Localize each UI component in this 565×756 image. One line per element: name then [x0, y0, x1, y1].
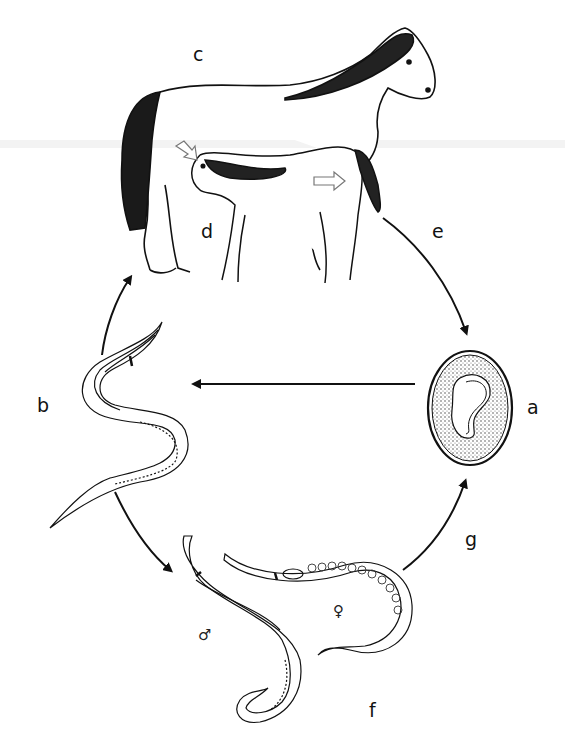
egg-illustration — [428, 351, 512, 465]
arrow-f-to-a — [403, 482, 465, 570]
female-worm-illustration — [224, 554, 412, 655]
foal-illustration — [192, 147, 381, 283]
mare-illustration — [122, 28, 436, 273]
female-symbol: ♀ — [333, 604, 344, 619]
label-c: c — [193, 45, 203, 64]
arrow-b-to-f — [115, 492, 170, 570]
label-f: f — [369, 701, 376, 720]
label-d: d — [201, 222, 213, 241]
life-cycle-diagram — [0, 0, 565, 756]
arrow-b-to-c — [102, 278, 130, 355]
label-g: g — [465, 530, 477, 549]
male-symbol: ♂ — [198, 628, 211, 643]
label-e: e — [432, 222, 444, 241]
scan-band — [0, 140, 565, 148]
label-b: b — [37, 396, 49, 415]
arrow-c-to-a — [383, 218, 466, 332]
larva-illustration — [50, 322, 188, 528]
cycle-arrows — [102, 218, 466, 570]
label-a: a — [527, 398, 539, 417]
